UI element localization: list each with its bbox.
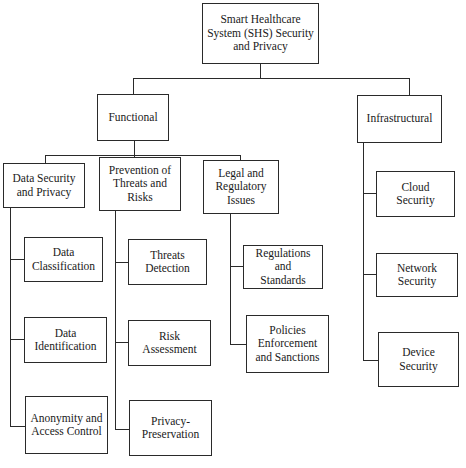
node-label-line: Detection [145, 262, 190, 276]
connector [10, 259, 24, 260]
node-label-line: System (SHS) Security [207, 27, 314, 41]
node-label-line: and Privacy [13, 186, 76, 200]
node-data-security-privacy: Data Security and Privacy [3, 163, 85, 208]
connector [260, 63, 261, 79]
node-label-line: Assessment [142, 343, 196, 357]
connector [363, 274, 376, 275]
connector [115, 342, 128, 343]
node-label-line: Risk [142, 330, 196, 344]
node-legal-regulatory-issues: Legal and Regulatory Issues [203, 160, 279, 214]
node-label-line: Preservation [142, 428, 199, 442]
connector [230, 213, 231, 345]
connector [363, 142, 364, 361]
node-label-line: Issues [215, 194, 266, 208]
node-risk-assessment: Risk Assessment [128, 320, 211, 366]
node-cloud-security: Cloud Security [376, 171, 455, 217]
node-label-line: Identification [35, 340, 97, 354]
node-data-identification: Data Identification [24, 317, 107, 363]
connector [45, 155, 46, 163]
node-label-line: Privacy- [142, 415, 199, 429]
node-label-line: Enforcement [255, 337, 319, 351]
node-privacy-preservation: Privacy- Preservation [129, 400, 212, 456]
node-label: Functional [108, 111, 157, 125]
connector [363, 193, 376, 194]
node-regulations-standards: Regulations and Standards [243, 245, 323, 289]
node-label: Infrastructural [367, 112, 433, 126]
node-label-line: Data [35, 327, 97, 341]
node-label-line: Threats and [109, 177, 171, 191]
node-data-classification: Data Classification [24, 237, 103, 282]
node-label-line: and Sanctions [255, 351, 319, 365]
node-label-line: and Privacy [207, 40, 314, 54]
connector [409, 78, 410, 95]
node-device-security: Device Security [378, 332, 459, 387]
node-threats-detection: Threats Detection [128, 239, 207, 285]
node-label-line: Threats [145, 249, 190, 263]
connector [230, 344, 246, 345]
connector [363, 360, 378, 361]
connector [115, 210, 116, 430]
node-policies-enforcement-sanctions: Policies Enforcement and Sanctions [246, 315, 329, 373]
connector [10, 339, 24, 340]
node-label-line: Policies [255, 324, 319, 338]
node-root-shs-security-privacy: Smart Healthcare System (SHS) Security a… [202, 3, 319, 64]
node-label-line: Security [399, 360, 437, 374]
connector [133, 78, 410, 79]
node-label-line: Data Security [13, 172, 76, 186]
node-prevention-threats-risks: Prevention of Threats and Risks [99, 157, 181, 211]
node-functional: Functional [97, 94, 169, 141]
connector [230, 266, 243, 267]
node-label-line: Standards [247, 274, 319, 288]
node-label-line: Regulatory [215, 180, 266, 194]
node-label-line: Security [397, 275, 437, 289]
connector [115, 429, 129, 430]
node-label-line: Data [32, 246, 95, 260]
connector [134, 140, 135, 156]
node-label-line: Classification [32, 260, 95, 274]
node-label-line: Regulations and [247, 247, 319, 274]
node-infrastructural: Infrastructural [357, 95, 442, 143]
node-label-line: Risks [109, 191, 171, 205]
node-label-line: Device [399, 346, 437, 360]
node-label-line: Access Control [31, 425, 103, 439]
connector [133, 78, 134, 94]
node-label-line: Smart Healthcare [207, 13, 314, 27]
node-network-security: Network Security [376, 253, 458, 297]
connector [115, 262, 128, 263]
node-label-line: Cloud [396, 181, 434, 195]
node-label-line: Anonymity and [31, 412, 103, 426]
connector [10, 207, 11, 427]
connector [10, 426, 25, 427]
node-label-line: Network [397, 262, 437, 276]
node-label-line: Security [396, 194, 434, 208]
diagram-canvas: Smart Healthcare System (SHS) Security a… [0, 0, 466, 468]
node-label-line: Prevention of [109, 164, 171, 178]
node-label-line: Legal and [215, 167, 266, 181]
node-anonymity-access-control: Anonymity and Access Control [25, 396, 108, 454]
